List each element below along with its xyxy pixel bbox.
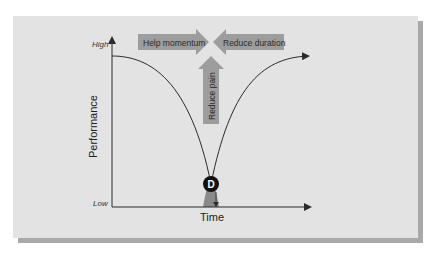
recovery-curve <box>211 56 308 184</box>
help-momentum-label: Help momentum <box>143 38 205 48</box>
reduce-duration-label: Reduce duration <box>223 38 286 48</box>
reduce-pain-label: Reduce pain <box>207 72 217 120</box>
decline-curve <box>112 56 211 184</box>
y-low-label: Low <box>93 199 109 208</box>
y-axis-title: Performance <box>87 95 99 158</box>
x-axis-title: Time <box>200 211 224 223</box>
y-high-label: High <box>92 40 109 49</box>
d-marker-label: D <box>207 179 214 190</box>
performance-diagram: Help momentum Reduce duration Reduce pai… <box>0 0 437 256</box>
